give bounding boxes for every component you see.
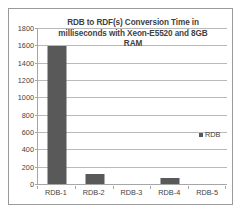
bar-slot <box>114 28 152 184</box>
x-tick-mark <box>75 186 76 189</box>
bar-slot <box>76 28 114 184</box>
plot-area <box>37 28 227 185</box>
y-axis: 020040060080010001200140016001800 <box>9 28 34 185</box>
y-axis-tick-label: 0 <box>10 180 34 189</box>
x-tick-mark <box>113 186 114 189</box>
bar <box>161 178 180 185</box>
x-axis-tick-label: RDB-2 <box>75 188 113 197</box>
y-tick-mark <box>35 97 38 98</box>
y-axis-tick-label: 1000 <box>10 93 34 102</box>
y-tick-mark <box>35 167 38 168</box>
y-tick-mark <box>35 45 38 46</box>
x-axis: RDB-1RDB-2RDB-3RDB-4RDB-5 <box>37 186 227 200</box>
bar-slot <box>189 28 227 184</box>
x-tick-mark <box>150 186 151 189</box>
legend: RDB <box>199 130 220 139</box>
bar <box>85 174 104 184</box>
y-tick-mark <box>35 149 38 150</box>
y-axis-tick-label: 1200 <box>10 76 34 85</box>
legend-swatch-icon <box>199 133 203 137</box>
y-tick-mark <box>35 28 38 29</box>
bar-slot <box>151 28 189 184</box>
x-tick-mark <box>37 186 38 189</box>
chart-title-line-1: RDB to RDF(s) Conversion Time in <box>37 18 229 29</box>
chart-container: RDB to RDF(s) Conversion Time in millise… <box>8 8 233 205</box>
legend-label-rdb: RDB <box>205 130 220 139</box>
y-axis-tick-label: 1600 <box>10 41 34 50</box>
x-axis-tick-label: RDB-4 <box>150 188 188 197</box>
x-axis-tick-label: RDB-3 <box>113 188 151 197</box>
y-axis-tick-label: 400 <box>10 145 34 154</box>
y-tick-mark <box>35 80 38 81</box>
y-tick-mark <box>35 132 38 133</box>
bar <box>47 46 66 184</box>
y-axis-tick-label: 600 <box>10 128 34 137</box>
x-tick-mark <box>225 186 226 189</box>
x-axis-tick-label: RDB-5 <box>188 188 226 197</box>
y-axis-tick-label: 200 <box>10 162 34 171</box>
y-tick-mark <box>35 63 38 64</box>
bar-slot <box>38 28 76 184</box>
y-tick-mark <box>35 115 38 116</box>
y-axis-tick-label: 800 <box>10 110 34 119</box>
bar-series-rdb <box>38 28 227 184</box>
y-axis-tick-label: 1400 <box>10 58 34 67</box>
x-axis-tick-label: RDB-1 <box>37 188 75 197</box>
y-axis-tick-label: 1800 <box>10 24 34 33</box>
x-tick-mark <box>188 186 189 189</box>
y-tick-mark <box>35 184 38 185</box>
